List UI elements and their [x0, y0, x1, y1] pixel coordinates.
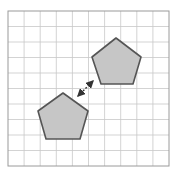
pentagon-lower — [38, 93, 88, 139]
pentagon-upper — [92, 38, 141, 84]
grid — [8, 11, 169, 166]
diagram-canvas — [0, 0, 179, 175]
